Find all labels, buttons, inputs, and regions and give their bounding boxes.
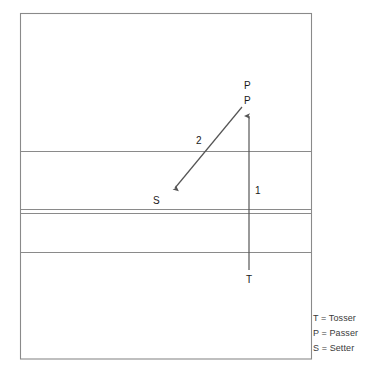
legend: T = Tosser P = Passer S = Setter [313,311,385,356]
passer-label-top: P [244,81,251,91]
setter-label: S [153,196,160,206]
legend-tosser: T = Tosser [313,311,385,326]
court-outline [21,14,312,360]
legend-passer: P = Passer [313,326,385,341]
volleyball-court-diagram: P P S T 1 2 T = Tosser P = Passer S = Se… [0,0,385,374]
path-label-two: 2 [196,136,202,146]
passer-label-bottom: P [244,96,251,106]
tosser-label: T [246,275,252,285]
path-label-one: 1 [255,186,261,196]
legend-setter: S = Setter [313,341,385,356]
